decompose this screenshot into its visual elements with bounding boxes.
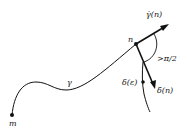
label-n: n — [128, 35, 133, 44]
point-m — [10, 113, 14, 117]
label-gamma: γ — [67, 78, 72, 87]
point-delta-epsilon — [141, 80, 145, 84]
geodesic-diagram: m n γ γ̇(n) >π/2 δ(ε) δ̇(n) — [0, 0, 187, 135]
label-m: m — [9, 119, 17, 128]
label-gamma-dot: γ̇(n) — [146, 10, 162, 19]
gamma-tangent-arrow — [136, 26, 166, 44]
label-delta-epsilon: δ(ε) — [122, 78, 137, 87]
delta-tangent-arrowhead — [150, 80, 156, 89]
label-delta-dot: δ̇(n) — [157, 86, 173, 95]
delta-tangent-arrow — [136, 44, 153, 84]
label-angle: >π/2 — [157, 54, 177, 63]
gamma-curve — [12, 44, 136, 115]
gamma-tangent-arrowhead — [160, 24, 169, 31]
point-n — [134, 42, 138, 46]
